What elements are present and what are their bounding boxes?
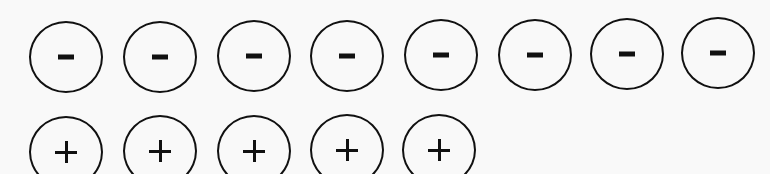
minus-sign-icon: [619, 52, 635, 57]
minus-sign-icon: [339, 54, 355, 59]
plus-sign-icon: [55, 141, 77, 163]
negative-charge-4: [310, 20, 384, 92]
positive-charge-4: [310, 114, 384, 174]
minus-sign-icon: [527, 53, 543, 58]
positive-charge-1: [29, 116, 103, 174]
negative-charge-3: [217, 20, 291, 92]
negative-charge-1: [29, 21, 103, 93]
minus-sign-icon: [152, 55, 168, 60]
minus-sign-icon: [246, 54, 262, 59]
plus-sign-icon: [149, 140, 171, 162]
plus-sign-icon: [243, 140, 265, 162]
positive-charge-5: [402, 114, 476, 174]
positive-charge-3: [217, 115, 291, 174]
minus-sign-icon: [433, 53, 449, 58]
plus-sign-icon: [428, 139, 450, 161]
minus-sign-icon: [710, 51, 726, 56]
minus-sign-icon: [58, 55, 74, 60]
negative-charge-7: [590, 18, 664, 90]
positive-charge-2: [123, 115, 197, 174]
negative-charge-2: [123, 21, 197, 93]
negative-charge-6: [498, 19, 572, 91]
negative-charge-5: [404, 19, 478, 91]
negative-charge-8: [681, 17, 755, 89]
plus-sign-icon: [336, 139, 358, 161]
